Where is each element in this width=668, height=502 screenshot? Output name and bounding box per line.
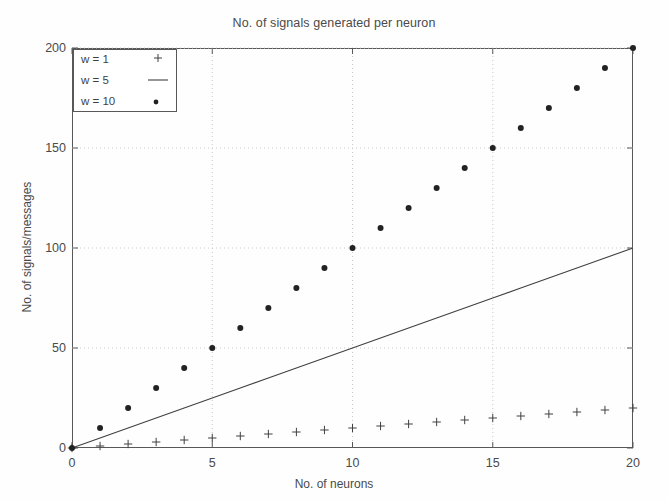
legend-label-2: w = 10: [81, 95, 115, 107]
x-tick-label: 10: [333, 456, 373, 470]
line-marker-icon: [146, 71, 172, 92]
x-tick-label: 5: [192, 456, 232, 470]
x-tick-label: 0: [52, 456, 92, 470]
y-tick-label: 200: [26, 41, 66, 55]
legend-label-0: w = 1: [81, 53, 109, 65]
plus-marker-icon: [146, 50, 172, 71]
page-title: No. of signals generated per neuron: [0, 16, 668, 30]
x-axis-tick-labels: 05101520: [0, 456, 668, 476]
y-tick-label: 0: [26, 441, 66, 455]
legend-entry-0: w = 1: [74, 50, 178, 71]
y-axis-label: No. of signals/messages: [20, 147, 34, 347]
x-axis-label: No. of neurons: [0, 477, 668, 491]
legend-label-1: w = 5: [81, 74, 109, 86]
figure-chart: No. of signals generated per neuron 0501…: [0, 0, 668, 502]
dot-marker-icon: [146, 92, 172, 113]
x-tick-label: 20: [613, 456, 653, 470]
legend-entry-2: w = 10: [74, 92, 178, 113]
x-tick-label: 15: [473, 456, 513, 470]
legend: w = 1 w = 5 w = 10: [73, 49, 177, 112]
legend-entry-1: w = 5: [74, 71, 178, 92]
